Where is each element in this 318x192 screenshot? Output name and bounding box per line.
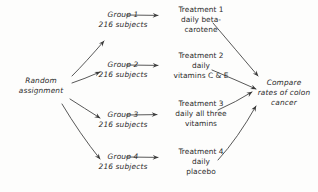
experiment-design-diagram: Random assignment Group 1 216 subjects G…: [0, 0, 318, 192]
treatment-4-line-2: daily: [163, 157, 239, 167]
node-group-4: Group 4 216 subjects: [88, 152, 158, 172]
node-treatment-4: Treatment 4 daily placebo: [163, 147, 239, 178]
compare-line-1: Compare: [252, 78, 316, 88]
node-group-2: Group 2 216 subjects: [88, 60, 158, 80]
group-1-name: Group 1: [88, 10, 158, 20]
group-4-subjects: 216 subjects: [88, 162, 158, 172]
group-4-name: Group 4: [88, 152, 158, 162]
treatment-1-line-1: Treatment 1: [163, 5, 239, 15]
node-treatment-2: Treatment 2 daily vitamins C & E: [163, 51, 239, 82]
node-group-3: Group 3 216 subjects: [88, 110, 158, 130]
compare-line-3: cancer: [252, 98, 316, 108]
treatment-2-line-3: vitamins C & E: [163, 71, 239, 81]
treatment-4-line-3: placebo: [163, 167, 239, 177]
group-1-subjects: 216 subjects: [88, 20, 158, 30]
treatment-3-line-3: vitamins: [160, 119, 242, 129]
node-treatment-1: Treatment 1 daily beta- carotene: [163, 5, 239, 36]
treatment-3-line-2: daily all three: [160, 109, 242, 119]
node-group-1: Group 1 216 subjects: [88, 10, 158, 30]
group-2-name: Group 2: [88, 60, 158, 70]
treatment-2-line-1: Treatment 2: [163, 51, 239, 61]
node-random-assignment: Random assignment: [8, 76, 74, 96]
treatment-1-line-3: carotene: [163, 25, 239, 35]
random-assignment-line-1: Random: [8, 76, 74, 86]
node-treatment-3: Treatment 3 daily all three vitamins: [160, 99, 242, 130]
treatment-2-line-2: daily: [163, 61, 239, 71]
group-3-name: Group 3: [88, 110, 158, 120]
compare-line-2: rates of colon: [252, 88, 316, 98]
treatment-3-line-1: Treatment 3: [160, 99, 242, 109]
node-compare-outcome: Compare rates of colon cancer: [252, 78, 316, 109]
group-3-subjects: 216 subjects: [88, 120, 158, 130]
treatment-1-line-2: daily beta-: [163, 15, 239, 25]
random-assignment-line-2: assignment: [8, 86, 74, 96]
treatment-4-line-1: Treatment 4: [163, 147, 239, 157]
group-2-subjects: 216 subjects: [88, 70, 158, 80]
